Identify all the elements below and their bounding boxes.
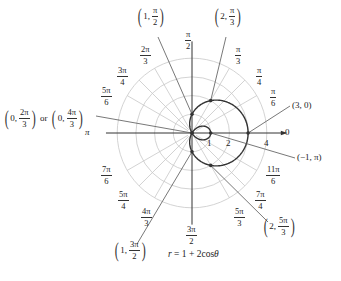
denominator: 4 (258, 201, 262, 211)
denominator: 3 (236, 56, 240, 66)
numerator: 7π (255, 190, 266, 201)
numerator: 5π (234, 207, 245, 218)
numerator: π (229, 6, 235, 17)
point-marker (246, 131, 250, 135)
point-marker (190, 113, 194, 117)
numerator: π (270, 87, 276, 98)
denominator: 4 (120, 77, 124, 87)
point-label-3-0: (3, 0) (292, 101, 312, 110)
denominator: 2 (186, 41, 190, 51)
numerator: 5π (118, 190, 129, 201)
angle-label-pi-over-3: π3 (235, 45, 241, 65)
angle-label-pi-over-2: π2 (185, 30, 191, 50)
leader-line (211, 133, 295, 158)
radius-label-2: 2 (226, 139, 231, 148)
grid-spoke (195, 80, 245, 130)
right-paren: ) (31, 107, 35, 129)
comma: , (148, 12, 150, 21)
comma: , (62, 114, 64, 123)
or-text: or (40, 114, 48, 123)
leader-line (137, 152, 192, 244)
denominator: 3 (281, 227, 285, 237)
denominator: 4 (257, 77, 261, 87)
point-theta-fraction: π3 (229, 6, 235, 26)
angle-label-5pi-over-3: 5π3 (234, 207, 245, 227)
right-paren: ) (79, 107, 83, 129)
equation-rhs: = 1 + 2cos (172, 249, 214, 259)
angle-label-7pi-over-6: 7π6 (101, 165, 112, 185)
left-paren: ( (138, 5, 142, 27)
point-label-origin-pair: ( 0, 2π3 ) or ( 0, 4π3 ) (3, 107, 84, 129)
polar-graph-figure: 0 π 1 2 4 π2π3π4π62π33π45π67π65π44π33π25… (0, 0, 341, 281)
numerator: 4π (141, 207, 152, 218)
polar-plot (0, 0, 341, 281)
axis-label-pi: π (85, 128, 90, 137)
point-theta-fraction: π2 (152, 6, 158, 26)
denominator: 6 (271, 176, 275, 186)
point-marker (209, 164, 213, 168)
denominator: 2 (153, 17, 157, 27)
left-paren: ( (52, 107, 56, 129)
denominator: 2 (189, 236, 193, 246)
equation-theta: θ (214, 249, 219, 259)
denominator: 3 (22, 119, 26, 129)
angle-label-3pi-over-2: 3π2 (186, 225, 197, 245)
numerator: 2π (140, 45, 151, 56)
denominator: 3 (143, 56, 147, 66)
grid-spoke (195, 136, 245, 186)
leader-line (211, 37, 226, 101)
comma: , (15, 114, 17, 123)
radius-label-4: 4 (264, 139, 269, 148)
equation-label: r = 1 + 2cosθ (168, 249, 219, 259)
point-theta-fraction: 5π3 (278, 216, 289, 236)
numerator: 3π (117, 66, 128, 77)
angle-label-3pi-over-4: 3π4 (117, 66, 128, 86)
comma: , (125, 246, 127, 255)
point-label-1-pi-over-2: ( 1, π2 ) (136, 5, 166, 27)
right-paren: ) (237, 5, 241, 27)
point-label-1-3pi-over-2: ( 1, 3π2 ) (113, 239, 147, 261)
comma: , (274, 222, 276, 231)
numerator: 5π (278, 216, 289, 227)
numerator: π (185, 30, 191, 41)
angle-label-5pi-over-6: 5π6 (101, 86, 112, 106)
right-paren: ) (141, 239, 145, 261)
denominator: 6 (104, 176, 108, 186)
denominator: 3 (230, 17, 234, 27)
left-paren: ( (215, 5, 219, 27)
radius-label-1: 1 (207, 139, 212, 148)
right-paren: ) (290, 215, 294, 237)
numerator: 11π (266, 165, 280, 176)
numerator: 5π (101, 86, 112, 97)
point-marker (209, 99, 213, 103)
point-label-2-pi-over-3: ( 2, π3 ) (213, 5, 243, 27)
numerator: 4π (67, 108, 78, 119)
angle-label-7pi-over-4: 7π4 (255, 190, 266, 210)
numerator: 7π (101, 165, 112, 176)
leader-line (248, 106, 290, 133)
point-theta-fraction: 4π3 (67, 108, 78, 128)
numerator: 3π (129, 240, 140, 251)
angle-label-4pi-over-3: 4π3 (141, 207, 152, 227)
numerator: 3π (186, 225, 197, 236)
grid-spoke (139, 136, 189, 186)
denominator: 6 (271, 98, 275, 108)
angle-label-11pi-over-6: 11π6 (266, 165, 280, 185)
denominator: 3 (70, 119, 74, 129)
angle-label-5pi-over-4: 5π4 (118, 190, 129, 210)
right-paren: ) (160, 5, 164, 27)
numerator: 2π (19, 108, 30, 119)
denominator: 6 (104, 97, 108, 107)
angle-label-2pi-over-3: 2π3 (140, 45, 151, 65)
denominator: 3 (144, 218, 148, 228)
grid-spoke (139, 80, 189, 130)
left-paren: ( (115, 239, 119, 261)
left-paren: ( (264, 215, 268, 237)
point-marker (190, 131, 194, 135)
point-marker (209, 131, 213, 135)
numerator: π (152, 6, 158, 17)
numerator: π (256, 66, 262, 77)
denominator: 3 (237, 218, 241, 228)
point-label-2-5pi-over-3: ( 2, 5π3 ) (262, 215, 296, 237)
angle-label-pi-over-4: π4 (256, 66, 262, 86)
